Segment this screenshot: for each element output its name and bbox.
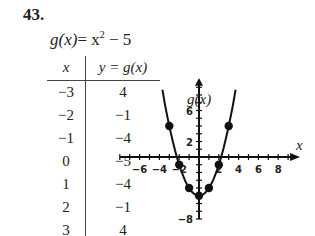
data-point	[165, 122, 173, 130]
data-point	[225, 122, 233, 130]
graph: −6−4−2246862−8	[0, 0, 315, 236]
tick-labels: −6−4−2246862−8	[132, 106, 282, 226]
data-point	[175, 161, 183, 169]
svg-text:−8: −8	[178, 214, 193, 225]
svg-text:8: 8	[275, 164, 282, 175]
y-axis-label: g(x)	[187, 91, 211, 108]
data-point	[215, 161, 223, 169]
svg-text:4: 4	[235, 164, 242, 175]
svg-text:2: 2	[186, 137, 193, 148]
data-point	[205, 184, 213, 192]
svg-text:−6: −6	[132, 164, 147, 175]
data-point	[195, 192, 203, 200]
svg-text:6: 6	[255, 164, 262, 175]
x-axis-label: x	[296, 137, 303, 154]
data-point	[185, 184, 193, 192]
y-axis-arrow-icon	[195, 78, 203, 86]
svg-text:−4: −4	[152, 164, 167, 175]
x-axis-arrow-icon	[290, 153, 300, 161]
